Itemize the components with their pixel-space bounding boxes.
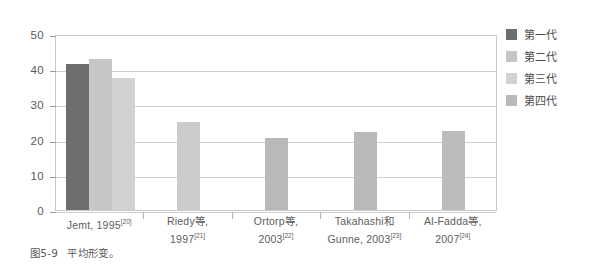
x-axis-category-label: Al-Fadda等,2007[24] [409,215,497,246]
legend-color-swatch [506,73,517,84]
x-axis-category-label: Jemt, 1995[20] [55,215,143,232]
caption-text: 平均形变。 [67,247,119,259]
y-axis-tick [50,212,56,213]
figure-container: 01020304050 Jemt, 1995[20]Riedy等,1997[21… [0,0,589,266]
legend-label: 第一代 [524,26,557,42]
chart-plot-area [55,35,497,211]
gridline [56,212,496,213]
legend-item[interactable]: 第一代 [506,26,557,42]
chart-legend: 第一代第二代第三代第四代 [506,26,557,108]
category-label-line: Al-Fadda等, [409,215,497,229]
bar-group [233,36,321,210]
bar[interactable] [442,131,465,210]
bar-group [56,36,144,210]
bar[interactable] [177,122,200,210]
reference-superscript: [21] [194,232,205,239]
y-axis-tick-label: 20 [0,135,44,147]
legend-color-swatch [506,51,517,62]
bar[interactable] [112,78,135,210]
category-label-line: Riedy等, [143,215,231,229]
bar[interactable] [89,59,112,210]
y-axis-tick-label: 50 [0,29,44,41]
bar-group [144,36,232,210]
bar[interactable] [265,138,288,210]
legend-color-swatch [506,29,517,40]
bar-group [410,36,498,210]
legend-label: 第四代 [524,92,557,108]
x-axis-category-label: Riedy等,1997[21] [143,215,231,246]
y-axis-tick-label: 30 [0,99,44,111]
bar[interactable] [66,64,89,210]
legend-item[interactable]: 第四代 [506,92,557,108]
reference-superscript: [22] [283,232,294,239]
legend-item[interactable]: 第二代 [506,48,557,64]
reference-superscript: [23] [390,232,401,239]
figure-caption: 图5-9平均形变。 [30,245,119,260]
reference-superscript: [20] [121,218,132,225]
category-label-line: 1997[21] [143,229,231,246]
category-label-line: Jemt, 1995[20] [55,215,143,232]
legend-label: 第三代 [524,70,557,86]
category-label-line: Takahashi和 [320,215,408,229]
legend-color-swatch [506,95,517,106]
category-label-line: 2007[24] [409,229,497,246]
y-axis-tick-label: 0 [0,205,44,217]
legend-label: 第二代 [524,48,557,64]
category-label-line: Ortorp等, [232,215,320,229]
reference-superscript: [24] [459,232,470,239]
category-label-line: 2003[22] [232,229,320,246]
x-axis-category-label: Ortorp等,2003[22] [232,215,320,246]
legend-item[interactable]: 第三代 [506,70,557,86]
y-axis-tick-label: 40 [0,64,44,76]
category-label-line: Gunne, 2003[23] [320,229,408,246]
caption-number: 图5-9 [30,247,58,259]
bar-group [321,36,409,210]
y-axis-tick-label: 10 [0,170,44,182]
bar[interactable] [354,132,377,210]
x-axis-category-label: Takahashi和Gunne, 2003[23] [320,215,408,246]
